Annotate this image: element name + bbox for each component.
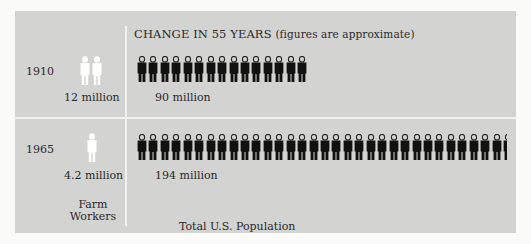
person-icon bbox=[297, 56, 308, 82]
farm-value-1910: 12 million bbox=[64, 91, 120, 104]
population-figures-1910 bbox=[137, 56, 309, 82]
person-icon bbox=[286, 56, 297, 82]
person-icon bbox=[434, 134, 445, 160]
person-icon bbox=[263, 134, 274, 160]
person-icon bbox=[320, 134, 331, 160]
person-icon bbox=[137, 134, 148, 160]
row-divider bbox=[15, 117, 516, 119]
person-icon bbox=[160, 56, 171, 82]
person-icon bbox=[251, 134, 262, 160]
person-icon bbox=[251, 56, 262, 82]
person-icon bbox=[297, 134, 308, 160]
person-icon bbox=[240, 56, 251, 82]
person-icon bbox=[160, 134, 171, 160]
person-icon bbox=[217, 56, 228, 82]
person-icon bbox=[412, 134, 423, 160]
title-text: CHANGE IN 55 YEARS bbox=[134, 27, 272, 41]
person-icon bbox=[194, 56, 205, 82]
person-icon bbox=[389, 134, 400, 160]
person-icon bbox=[457, 134, 468, 160]
person-icon bbox=[206, 134, 217, 160]
person-icon bbox=[469, 134, 480, 160]
person-icon bbox=[480, 134, 491, 160]
person-icon bbox=[263, 56, 274, 82]
year-label-1910: 1910 bbox=[26, 65, 54, 78]
person-icon bbox=[309, 134, 320, 160]
person-icon bbox=[229, 134, 240, 160]
person-icon bbox=[492, 134, 503, 160]
person-icon bbox=[137, 56, 148, 82]
farm-value-1965: 4.2 million bbox=[64, 169, 123, 182]
column-divider bbox=[125, 26, 127, 226]
farm-workers-column-label: Farm Workers bbox=[63, 199, 123, 223]
person-icon bbox=[274, 134, 285, 160]
person-icon bbox=[274, 56, 285, 82]
person-icon bbox=[183, 134, 194, 160]
person-icon bbox=[171, 134, 182, 160]
chart-title: CHANGE IN 55 YEARS (figures are approxim… bbox=[134, 27, 415, 41]
person-icon bbox=[423, 134, 434, 160]
person-icon bbox=[366, 134, 377, 160]
person-icon bbox=[377, 134, 388, 160]
farm-worker-figure-1965 bbox=[86, 133, 98, 167]
farm-label-line2: Workers bbox=[63, 211, 123, 223]
person-icon bbox=[206, 56, 217, 82]
person-icon bbox=[503, 134, 507, 160]
person-icon bbox=[183, 56, 194, 82]
person-icon bbox=[446, 134, 457, 160]
year-label-1965: 1965 bbox=[26, 143, 54, 156]
total-population-column-label: Total U.S. Population bbox=[179, 220, 295, 233]
person-icon bbox=[229, 56, 240, 82]
person-icon bbox=[354, 134, 365, 160]
population-figures-1965 bbox=[137, 134, 507, 160]
chart-panel: CHANGE IN 55 YEARS (figures are approxim… bbox=[15, 11, 516, 233]
person-icon bbox=[331, 134, 342, 160]
subtitle-text: (figures are approximate) bbox=[275, 28, 414, 40]
total-value-1910: 90 million bbox=[155, 91, 211, 104]
person-icon bbox=[240, 134, 251, 160]
total-value-1965: 194 million bbox=[155, 169, 218, 182]
person-icon bbox=[400, 134, 411, 160]
person-icon bbox=[171, 56, 182, 82]
farm-worker-figures-1910 bbox=[79, 56, 105, 90]
person-icon bbox=[194, 134, 205, 160]
person-icon bbox=[148, 134, 159, 160]
person-icon bbox=[148, 56, 159, 82]
person-icon bbox=[343, 134, 354, 160]
person-icon bbox=[286, 134, 297, 160]
person-icon bbox=[217, 134, 228, 160]
